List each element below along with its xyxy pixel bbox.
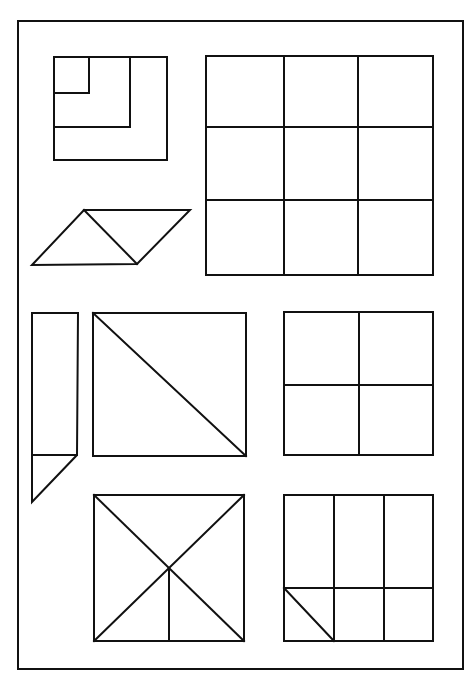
three-column-shape [284,495,433,641]
grid-2x2-shape [284,312,433,455]
grid-3x3-shape [206,56,433,275]
nested-squares-shape [54,57,167,160]
square-x-stem-shape [94,495,244,641]
tall-rect-triangle-shape [32,313,78,502]
square-diagonal-shape [93,313,246,456]
page-border [18,21,463,669]
parallelogram-shape [32,210,190,265]
puzzle-figure [0,0,465,683]
